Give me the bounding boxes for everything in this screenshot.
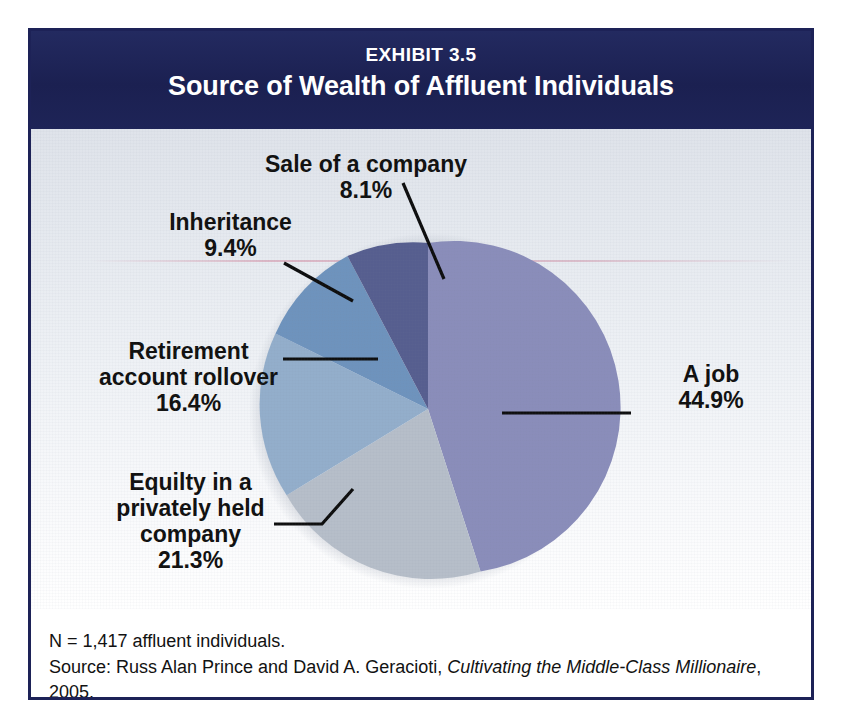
footnote-source: Source: Russ Alan Prince and David A. Ge… xyxy=(49,655,795,700)
callout-retirement-pct: 16.4% xyxy=(51,390,326,416)
footnote-source-prefix: Source: Russ Alan Prince and David A. Ge… xyxy=(49,657,447,677)
callout-inheritance: Inheritance 9.4% xyxy=(123,209,338,261)
callout-sale-of-company: Sale of a company 8.1% xyxy=(236,151,496,203)
callout-retirement-name-line2: account rollover xyxy=(51,364,326,390)
exhibit-title: Source of Wealth of Affluent Individuals xyxy=(31,71,811,102)
callout-a-job: A job 44.9% xyxy=(636,361,786,413)
callout-a-job-name: A job xyxy=(683,361,740,387)
callout-inheritance-pct: 9.4% xyxy=(123,235,338,261)
footnote-sample-size: N = 1,417 affluent individuals. xyxy=(49,629,795,655)
callout-inheritance-name: Inheritance xyxy=(169,209,292,235)
exhibit-title-bar: EXHIBIT 3.5 Source of Wealth of Affluent… xyxy=(31,31,811,129)
callout-sale-pct: 8.1% xyxy=(236,177,496,203)
callout-equity-name-line2: privately held xyxy=(53,495,328,521)
callout-retirement-rollover: Retirement account rollover 16.4% xyxy=(51,338,326,416)
exhibit-figure: EXHIBIT 3.5 Source of Wealth of Affluent… xyxy=(28,28,814,700)
callout-equity-name-line3: company xyxy=(53,521,328,547)
figure-footnote: N = 1,417 affluent individuals. Source: … xyxy=(31,609,811,700)
chart-area: Sale of a company 8.1% Inheritance 9.4% … xyxy=(31,129,811,609)
callout-retirement-name-line1: Retirement xyxy=(128,338,248,364)
callout-equity-pct: 21.3% xyxy=(53,547,328,573)
callout-sale-name: Sale of a company xyxy=(265,151,467,177)
callout-equity-private-company: Equilty in a privately held company 21.3… xyxy=(53,469,328,573)
exhibit-number: EXHIBIT 3.5 xyxy=(31,44,811,66)
callout-equity-name-line1: Equilty in a xyxy=(129,469,252,495)
callout-a-job-pct: 44.9% xyxy=(636,387,786,413)
footnote-source-title: Cultivating the Middle-Class Millionaire xyxy=(447,657,756,677)
